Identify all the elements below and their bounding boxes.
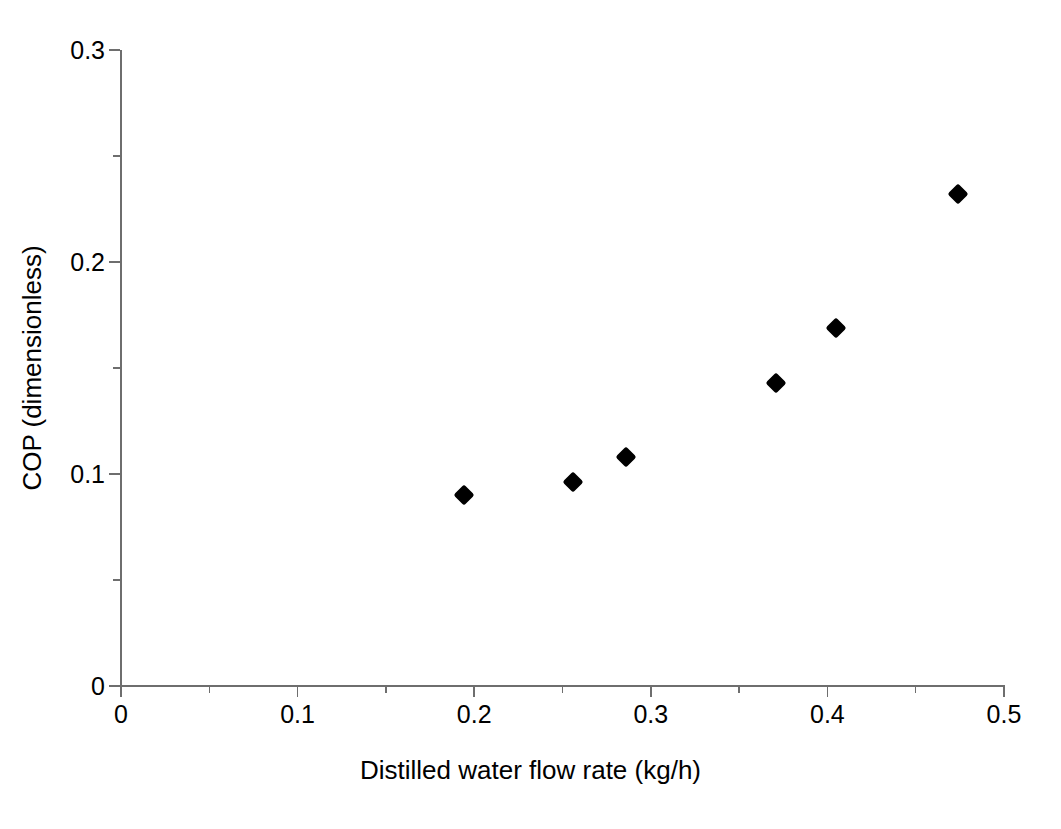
chart-figure: 00.10.20.3 00.10.20.30.40.5 Distilled wa…	[0, 0, 1061, 829]
data-point	[615, 446, 636, 467]
x-axis-title: Distilled water flow rate (kg/h)	[0, 755, 1061, 786]
x-tick-major	[827, 686, 829, 697]
x-tick-major	[120, 686, 122, 697]
x-tick-major	[650, 686, 652, 697]
y-tick-label: 0.3	[70, 36, 105, 65]
y-tick-minor	[113, 155, 120, 157]
data-point	[453, 485, 474, 506]
x-tick-label: 0.5	[987, 700, 1022, 729]
x-tick-label: 0.4	[810, 700, 845, 729]
data-point	[826, 317, 847, 338]
x-tick-minor	[562, 686, 564, 693]
y-tick-label: 0.1	[70, 460, 105, 489]
x-tick-minor	[209, 686, 211, 693]
y-tick-minor	[113, 579, 120, 581]
y-tick-label: 0.2	[70, 248, 105, 277]
data-point	[766, 372, 787, 393]
x-tick-major	[473, 686, 475, 697]
x-tick-major	[297, 686, 299, 697]
x-tick-label: 0	[114, 700, 128, 729]
y-tick-major	[109, 49, 120, 51]
x-tick-label: 0.3	[633, 700, 668, 729]
x-tick-label: 0.2	[457, 700, 492, 729]
plot-area	[121, 50, 1004, 686]
y-axis-title: COP (dimensionless)	[10, 50, 54, 686]
y-tick-major	[109, 261, 120, 263]
y-tick-major	[109, 473, 120, 475]
y-tick-label: 0	[91, 672, 105, 701]
x-tick-minor	[385, 686, 387, 693]
x-tick-minor	[738, 686, 740, 693]
x-tick-minor	[915, 686, 917, 693]
x-tick-label: 0.1	[280, 700, 315, 729]
y-tick-major	[109, 685, 120, 687]
data-point	[947, 184, 968, 205]
data-point	[562, 472, 583, 493]
y-tick-minor	[113, 367, 120, 369]
x-tick-major	[1003, 686, 1005, 697]
